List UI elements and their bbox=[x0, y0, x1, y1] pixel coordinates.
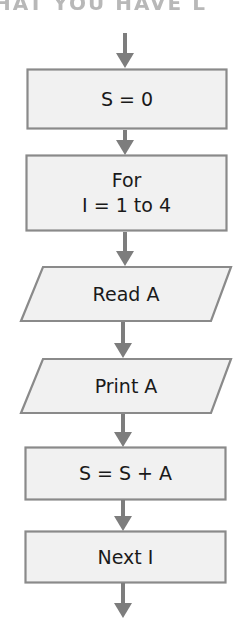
arrow-loop-to-read bbox=[116, 232, 134, 266]
node-label-print: Print A bbox=[21, 359, 231, 413]
arrow-read-to-print bbox=[114, 322, 132, 358]
node-label-accum: S = S + A bbox=[25, 447, 226, 500]
node-label-loop: For I = 1 to 4 bbox=[26, 155, 227, 231]
arrow-accum-to-next bbox=[114, 500, 132, 531]
arrow-print-to-accum bbox=[114, 414, 132, 447]
arrow-entry bbox=[116, 33, 134, 68]
node-label-next: Next I bbox=[25, 531, 226, 583]
arrow-exit bbox=[114, 583, 132, 618]
node-label-read: Read A bbox=[21, 267, 231, 321]
arrow-init-to-loop bbox=[116, 130, 134, 155]
node-label-init: S = 0 bbox=[27, 69, 227, 129]
